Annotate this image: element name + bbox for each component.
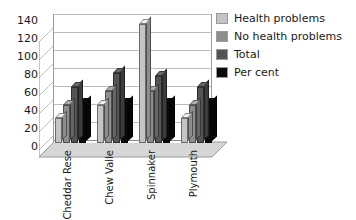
legend-item-no-health-problems: No health problems [216,28,352,45]
bar-front-face [55,118,62,143]
x-tick-label-chew-valle: Chew Valle [105,150,115,205]
y-tick-label: 140 [17,15,38,26]
bar-side-face [146,17,151,140]
legend-label: Per cent [234,66,279,79]
bar-front-face [181,118,188,143]
legend-swatch-icon [216,13,228,24]
x-tick-label-spinnaker: Spinnaker [147,150,157,200]
y-tick-label: 120 [17,33,38,44]
x-tick-label-cheddar-rese: Cheddar Rese [63,150,73,220]
legend-label: Total [234,48,260,61]
bar-front-face [97,105,104,143]
legend-label: No health problems [234,30,342,43]
y-axis: 140 120 100 80 60 40 20 0 [6,0,38,220]
bar-side-face [154,83,159,140]
legend-item-per-cent: Per cent [216,64,352,81]
y-tick-label: 40 [24,105,38,116]
bar-health-problems [97,105,104,143]
x-tick-label-plymouth: Plymouth [189,150,199,197]
bar-side-face [78,80,83,140]
legend-label: Health problems [234,12,325,25]
bar-side-face [120,65,125,140]
y-tick-label: 80 [24,69,38,80]
y-tick-label: 20 [24,123,38,134]
bar-front-face [139,24,146,143]
bar-group [181,14,213,143]
bar-chart: 140 120 100 80 60 40 20 0 [0,0,356,220]
bar-group [97,14,129,143]
legend-item-health-problems: Health problems [216,10,352,27]
x-axis: Cheddar Rese Chew Valle Spinnaker Plymou… [53,150,228,220]
legend-swatch-icon [216,67,228,78]
legend-item-total: Total [216,46,352,63]
bar-health-problems [181,118,188,143]
bar-group [55,14,87,143]
bar-side-face [112,83,117,140]
y-tick-label: 0 [31,141,38,152]
bar-group [139,14,171,143]
bar-series-container [53,14,228,158]
legend: Health problems No health problems Total… [216,10,352,82]
y-tick-label: 60 [24,87,38,98]
legend-swatch-icon [216,49,228,60]
bar-side-face [204,80,209,140]
legend-swatch-icon [216,31,228,42]
y-tick-label: 100 [17,51,38,62]
bar-health-problems [139,24,146,143]
bar-health-problems [55,118,62,143]
bar-side-face [162,68,167,140]
